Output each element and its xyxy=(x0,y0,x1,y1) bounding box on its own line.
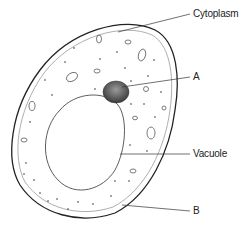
nucleus xyxy=(103,81,129,103)
label-vacuole: Vacuole xyxy=(193,148,227,159)
label-cytoplasm: Cytoplasm xyxy=(193,8,238,19)
cell-membrane xyxy=(18,30,172,211)
label-a: A xyxy=(193,71,199,82)
cytoplasm-dots xyxy=(23,47,162,210)
cell-diagram xyxy=(0,0,247,225)
cell-wall xyxy=(12,24,177,218)
vacuole xyxy=(45,95,124,190)
label-b: B xyxy=(193,205,199,216)
